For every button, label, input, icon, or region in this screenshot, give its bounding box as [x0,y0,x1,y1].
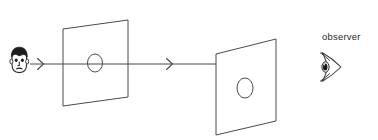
diagram-canvas: observer [0,0,378,140]
screen-plane [216,39,276,135]
observer-eye-icon [320,53,341,82]
aperture-plane [63,20,128,106]
observer-label: observer [322,31,361,42]
optics-diagram [0,0,378,140]
source-head-icon [10,47,29,72]
